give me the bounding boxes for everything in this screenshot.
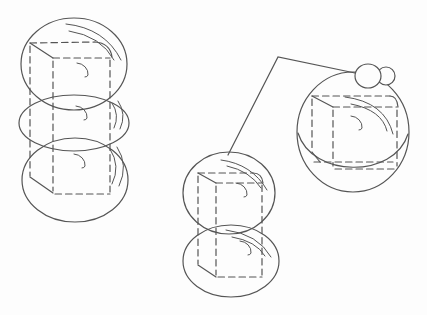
diagram-page	[0, 0, 427, 315]
paper-background	[0, 0, 427, 315]
diagram-canvas	[0, 0, 427, 315]
bump-circle	[355, 64, 381, 88]
